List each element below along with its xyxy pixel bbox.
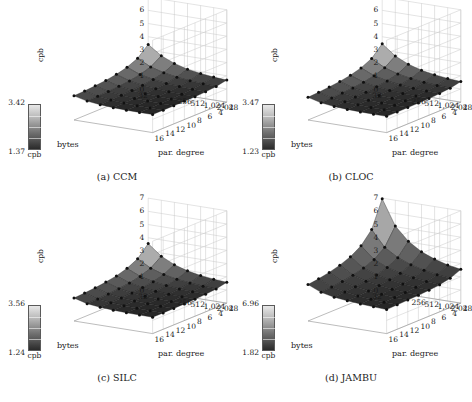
- z-axis-tick: 4: [135, 233, 144, 242]
- x-axis-tick: 12: [176, 326, 186, 335]
- y-axis-label: bytes: [57, 140, 79, 149]
- x-axis-tick: 2: [229, 304, 234, 313]
- x-axis-tick: 6: [442, 313, 447, 322]
- x-axis-tick: 10: [420, 121, 430, 130]
- z-axis-label: cpb: [270, 249, 279, 263]
- z-axis-tick: 2: [369, 58, 378, 67]
- y-axis-tick: 32: [372, 91, 382, 100]
- x-axis-tick: 2: [229, 103, 234, 112]
- z-axis-label: cpb: [270, 48, 279, 62]
- panel-caption: (d) JAMBU: [234, 372, 468, 383]
- y-axis-tick: 32: [138, 292, 148, 301]
- colorbar-silc: 3.56 1.24 cpb: [28, 305, 41, 351]
- colorbar-jambu: 6.96 1.82 cpb: [262, 305, 275, 351]
- z-axis-tick: 3: [369, 45, 378, 54]
- y-axis-label: bytes: [291, 341, 313, 350]
- z-axis-tick: 2: [369, 259, 378, 268]
- z-axis-tick: 2: [135, 58, 144, 67]
- colorbar-unit-label: cpb: [262, 351, 276, 360]
- panel-caption: (a) CCM: [0, 171, 234, 182]
- x-axis-tick: 14: [399, 129, 409, 138]
- x-axis-tick: 8: [431, 116, 436, 125]
- x-axis-label: par. degree: [392, 349, 438, 358]
- panel-jambu: cpb bytes par. degree 76543210 322565121…: [234, 201, 468, 402]
- z-axis-tick: 7: [135, 0, 144, 1]
- x-axis-tick: 12: [410, 326, 420, 335]
- z-axis-tick: 5: [369, 220, 378, 229]
- x-axis-tick: 16: [389, 134, 399, 143]
- z-axis-tick: 4: [369, 32, 378, 41]
- z-axis-tick: 3: [135, 246, 144, 255]
- z-axis-tick: 1: [369, 71, 378, 80]
- colorbar-max-label: 3.56: [8, 299, 25, 308]
- colorbar-min-label: 1.82: [242, 348, 259, 357]
- colorbar-unit-label: cpb: [28, 351, 42, 360]
- z-axis-tick: 4: [135, 32, 144, 41]
- x-axis-tick: 16: [155, 335, 165, 344]
- z-axis-tick: 4: [369, 233, 378, 242]
- z-axis-tick: 7: [135, 193, 144, 202]
- z-axis-tick: 1: [369, 272, 378, 281]
- colorbar-cloc: 3.47 1.23 cpb: [262, 104, 275, 150]
- z-axis-label: cpb: [36, 48, 45, 62]
- x-axis-tick: 6: [442, 112, 447, 121]
- z-axis-tick: 6: [135, 206, 144, 215]
- x-axis-tick: 8: [431, 317, 436, 326]
- x-axis-label: par. degree: [392, 148, 438, 157]
- x-axis-tick: 14: [165, 129, 175, 138]
- panel-caption: (b) CLOC: [234, 171, 468, 182]
- x-axis-tick: 14: [399, 330, 409, 339]
- x-axis-tick: 10: [186, 121, 196, 130]
- y-axis-tick: 32: [138, 91, 148, 100]
- x-axis-tick: 16: [155, 134, 165, 143]
- x-axis-tick: 2: [463, 304, 468, 313]
- x-axis-tick: 10: [186, 322, 196, 331]
- colorbar-max-label: 3.42: [8, 98, 25, 107]
- z-axis-tick: 6: [369, 206, 378, 215]
- x-axis-tick: 4: [452, 108, 457, 117]
- x-axis-tick: 4: [218, 108, 223, 117]
- x-axis-tick: 8: [197, 317, 202, 326]
- colorbar-min-label: 1.23: [242, 147, 259, 156]
- colorbar-min-label: 1.37: [8, 147, 25, 156]
- z-axis-label: cpb: [36, 249, 45, 263]
- panel-cloc: cpb bytes par. degree 76543210 322565121…: [234, 0, 468, 201]
- colorbar-max-label: 6.96: [242, 299, 259, 308]
- z-axis-tick: 7: [369, 0, 378, 1]
- surface-mesh: [308, 199, 461, 310]
- x-axis-label: par. degree: [158, 148, 204, 157]
- colorbar-gradient: [262, 305, 275, 351]
- x-axis-tick: 4: [452, 309, 457, 318]
- panel-ccm: cpb bytes par. degree 76543210 322565121…: [0, 0, 234, 201]
- colorbar-gradient: [262, 104, 275, 150]
- z-axis-tick: 5: [135, 19, 144, 28]
- y-axis-tick: 32: [372, 292, 382, 301]
- colorbar-max-label: 3.47: [242, 98, 259, 107]
- x-axis-tick: 2: [463, 103, 468, 112]
- x-axis-label: par. degree: [158, 349, 204, 358]
- panel-silc: cpb bytes par. degree 76543210 322565121…: [0, 201, 234, 402]
- colorbar-ccm: 3.42 1.37 cpb: [28, 104, 41, 150]
- x-axis-tick: 12: [410, 125, 420, 134]
- panel-caption: (c) SILC: [0, 372, 234, 383]
- x-axis-tick: 16: [389, 335, 399, 344]
- x-axis-tick: 6: [208, 313, 213, 322]
- x-axis-tick: 4: [218, 309, 223, 318]
- colorbar-unit-label: cpb: [28, 150, 42, 159]
- y-axis-label: bytes: [291, 140, 313, 149]
- z-axis-tick: 6: [135, 5, 144, 14]
- z-axis-tick: 5: [369, 19, 378, 28]
- x-axis-tick: 12: [176, 125, 186, 134]
- colorbar-gradient: [28, 104, 41, 150]
- x-axis-tick: 14: [165, 330, 175, 339]
- colorbar-min-label: 1.24: [8, 348, 25, 357]
- z-axis-tick: 5: [135, 220, 144, 229]
- z-axis-tick: 3: [135, 45, 144, 54]
- z-axis-tick: 6: [369, 5, 378, 14]
- colorbar-gradient: [28, 305, 41, 351]
- x-axis-tick: 6: [208, 112, 213, 121]
- z-axis-tick: 3: [369, 246, 378, 255]
- colorbar-unit-label: cpb: [262, 150, 276, 159]
- y-axis-label: bytes: [57, 341, 79, 350]
